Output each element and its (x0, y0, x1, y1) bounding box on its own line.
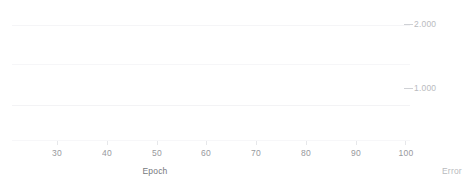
x-tick-label-70: 70 (251, 148, 261, 158)
x-tick-label-30: 30 (52, 148, 62, 158)
y-tick-label-1000: 1.000 (414, 83, 436, 93)
plot-area (0, 0, 473, 189)
x-tick-label-100: 100 (399, 148, 414, 158)
x-axis-title: Epoch (142, 166, 167, 176)
x-axis-ticks (58, 141, 406, 145)
error-vs-epoch-chart: 30 40 50 60 70 80 90 100 2.000 1.000 Epo… (0, 0, 473, 189)
x-tick-label-40: 40 (102, 148, 112, 158)
x-tick-label-80: 80 (301, 148, 311, 158)
x-tick-label-50: 50 (152, 148, 162, 158)
gridlines (12, 26, 410, 141)
y-tick-label-2000: 2.000 (414, 19, 436, 29)
y-axis-title: Error (442, 166, 462, 176)
x-tick-label-60: 60 (201, 148, 211, 158)
x-tick-label-90: 90 (351, 148, 361, 158)
y-axis-ticks (404, 25, 413, 89)
